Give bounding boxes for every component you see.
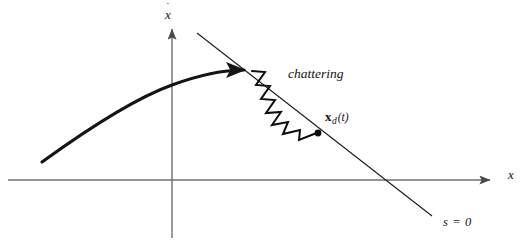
figure-canvas <box>0 0 527 251</box>
x-axis-label: x <box>508 168 514 181</box>
chattering-zigzag-path <box>252 71 318 140</box>
desired-state-label: xd(t) <box>325 110 349 127</box>
sliding-surface-label: s = 0 <box>443 216 472 229</box>
dot-accent-icon: ˙ <box>166 1 170 12</box>
desired-state-dot <box>315 130 322 137</box>
xdot-axis-label: ˙x <box>165 8 171 21</box>
phase-plane-figure: ˙x x chattering xd(t) s = 0 <box>0 0 527 251</box>
chattering-label: chattering <box>288 67 344 81</box>
desired-state-symbol: x <box>325 109 332 124</box>
sliding-surface-line <box>197 33 432 216</box>
desired-state-subscript: d <box>332 116 337 126</box>
approach-trajectory-curve <box>42 70 244 162</box>
desired-state-argument: (t) <box>337 111 349 123</box>
